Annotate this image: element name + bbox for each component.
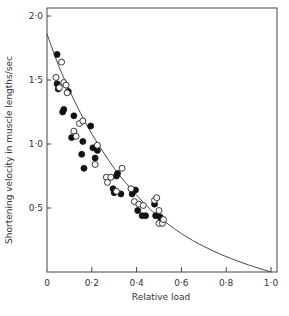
data-point-open (154, 195, 160, 201)
data-points (53, 51, 167, 226)
data-point-open (119, 165, 125, 171)
data-point-open (92, 161, 98, 167)
data-point-open (108, 174, 114, 180)
x-tick-label: 0·8 (219, 278, 234, 288)
data-point-filled (115, 170, 121, 176)
data-point-filled (79, 151, 85, 157)
y-tick-label: 1·5 (29, 75, 43, 85)
data-point-open (80, 118, 86, 124)
data-point-open (128, 186, 134, 192)
chart: 00·20·40·60·81·0 0·51·01·52·0 Relative l… (0, 0, 289, 316)
x-axis-ticks: 00·20·40·60·81·0 (44, 267, 278, 288)
y-axis-ticks: 0·51·01·52·0 (29, 11, 51, 213)
x-tick-label: 1·0 (264, 278, 279, 288)
data-point-filled (88, 123, 94, 129)
data-point-open (140, 202, 146, 208)
data-point-filled (71, 113, 77, 119)
data-point-open (160, 217, 166, 223)
data-point-open (56, 85, 62, 91)
data-point-open (53, 74, 59, 80)
data-point-filled (81, 165, 87, 171)
x-tick-label: 0·2 (85, 278, 99, 288)
data-point-open (156, 208, 162, 214)
y-tick-label: 2·0 (29, 11, 44, 21)
y-tick-label: 0·5 (29, 203, 43, 213)
data-point-filled (60, 109, 66, 115)
data-point-open (64, 90, 70, 96)
data-point-open (63, 82, 69, 88)
data-point-open (59, 59, 65, 65)
x-tick-label: 0·6 (174, 278, 189, 288)
x-tick-label: 0 (44, 278, 50, 288)
data-point-filled (54, 51, 60, 57)
y-axis-title: Shortening velocity in muscle lengths/se… (4, 56, 14, 244)
data-point-open (73, 133, 79, 139)
data-point-filled (143, 213, 149, 219)
data-point-filled (135, 208, 141, 214)
data-point-open (113, 188, 119, 194)
x-tick-label: 0·4 (129, 278, 144, 288)
data-point-open (94, 142, 100, 148)
data-point-filled (92, 155, 98, 161)
y-tick-label: 1·0 (29, 139, 44, 149)
data-point-filled (80, 138, 86, 144)
x-axis-title: Relative load (132, 292, 190, 302)
